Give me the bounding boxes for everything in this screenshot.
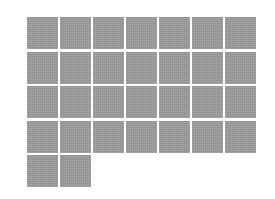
image-tile[interactable]	[192, 86, 223, 118]
image-tile[interactable]	[93, 121, 124, 153]
tile-grid	[27, 17, 256, 187]
image-tile[interactable]	[60, 155, 91, 187]
image-tile[interactable]	[159, 121, 190, 153]
image-tile[interactable]	[225, 17, 256, 49]
image-tile[interactable]	[192, 17, 223, 49]
image-tile[interactable]	[225, 86, 256, 118]
image-tile[interactable]	[93, 52, 124, 84]
image-tile[interactable]	[60, 17, 91, 49]
image-tile[interactable]	[159, 17, 190, 49]
image-tile[interactable]	[27, 52, 58, 84]
image-tile[interactable]	[27, 17, 58, 49]
image-tile[interactable]	[192, 52, 223, 84]
image-tile[interactable]	[126, 17, 157, 49]
image-tile[interactable]	[225, 121, 256, 153]
image-tile[interactable]	[159, 52, 190, 84]
image-tile[interactable]	[192, 121, 223, 153]
image-tile[interactable]	[27, 86, 58, 118]
image-tile[interactable]	[126, 86, 157, 118]
image-tile[interactable]	[27, 155, 58, 187]
image-tile[interactable]	[60, 86, 91, 118]
image-tile[interactable]	[27, 121, 58, 153]
image-tile[interactable]	[93, 17, 124, 49]
image-tile[interactable]	[126, 52, 157, 84]
image-tile[interactable]	[225, 52, 256, 84]
image-tile[interactable]	[93, 86, 124, 118]
image-tile[interactable]	[159, 86, 190, 118]
image-tile[interactable]	[126, 121, 157, 153]
image-tile[interactable]	[60, 121, 91, 153]
image-tile[interactable]	[60, 52, 91, 84]
